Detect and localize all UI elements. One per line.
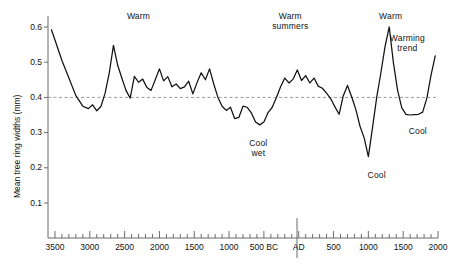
annotation-warming-trend-line1: Warming [390, 33, 425, 43]
annotation-warming-trend-line2: trend [397, 43, 417, 53]
x-tick-label: 2000 [150, 242, 169, 252]
annotation-cool-wet-line1: Cool [249, 138, 267, 148]
annotation-warm-2-text: Warm [379, 11, 402, 21]
annotation-warm-summers-line2: summers [272, 21, 308, 31]
y-tick-label: 0.1 [14, 198, 42, 208]
x-tick-label: 3000 [80, 242, 99, 252]
annotation-warm-summers: Warmsummers [272, 11, 308, 31]
annotation-warming-trend: Warmingtrend [390, 33, 425, 53]
annotation-cool-1: Cool [368, 170, 386, 180]
x-tick-label: 500 BC [250, 242, 278, 252]
x-tick-label: 3500 [45, 242, 64, 252]
annotation-cool-wet-line2: wet [251, 148, 265, 158]
y-tick-label: 0.5 [14, 57, 42, 67]
annotation-warm-summers-line1: Warm [279, 11, 302, 21]
y-tick-label: 0.2 [14, 162, 42, 172]
y-axis-label: Mean tree ring widths (mm) [12, 95, 22, 198]
y-tick-label: 0.6 [14, 22, 42, 32]
data-series-line [51, 27, 435, 157]
y-tick-label: 0.3 [14, 127, 42, 137]
x-tick-label: 1500 [394, 242, 413, 252]
annotation-cool-2-text: Cool [409, 126, 427, 136]
y-axis-ticks [44, 27, 48, 203]
x-tick-label: AD [293, 242, 305, 252]
annotation-warm-2: Warm [379, 11, 402, 21]
annotation-cool-1-text: Cool [368, 170, 386, 180]
annotation-cool-2: Cool [409, 126, 427, 136]
annotation-warm-1: Warm [127, 11, 150, 21]
chart-container: Mean tree ring widths (mm) 0.10.20.30.40… [0, 0, 458, 273]
annotation-warm-1-text: Warm [127, 11, 150, 21]
chart-axes [48, 16, 438, 258]
x-tick-label: 1000 [220, 242, 239, 252]
x-tick-label: 1000 [359, 242, 378, 252]
x-tick-label: 1500 [185, 242, 204, 252]
x-tick-label: 2500 [115, 242, 134, 252]
x-axis-ticks [55, 231, 438, 238]
x-tick-label: 500 [326, 242, 340, 252]
x-tick-label: 2000 [429, 242, 448, 252]
y-tick-label: 0.4 [14, 92, 42, 102]
annotation-cool-wet: Coolwet [249, 138, 267, 158]
